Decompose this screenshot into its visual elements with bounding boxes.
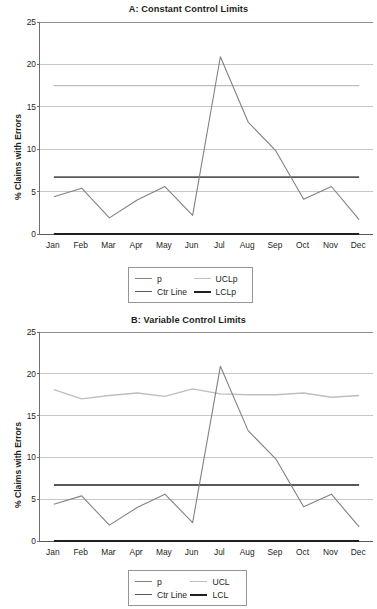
x-tick-label-dec: Dec	[344, 240, 372, 250]
legend-label: p	[157, 577, 162, 587]
chart-title-b: B: Variable Control Limits	[0, 315, 377, 325]
y-tick-label-5: 5	[31, 187, 36, 197]
y-tick-label-15: 15	[27, 102, 36, 112]
legend-swatch-icon	[135, 581, 152, 582]
x-axis-labels-a: JanFebMarAprMayJunJulAugSepOctNovDec	[39, 240, 372, 250]
x-tick-label-jan: Jan	[39, 547, 67, 557]
legend-label: Ctr Line	[157, 590, 187, 600]
legend-swatch-icon	[190, 581, 207, 582]
legend-swatch-icon	[190, 594, 207, 596]
legend-label: Ctr Line	[157, 287, 187, 297]
x-tick-label-aug: Aug	[233, 547, 261, 557]
legend-item-ctr-line: Ctr Line	[135, 590, 190, 600]
legend-label: UCLp	[216, 274, 238, 284]
legend-swatch-icon	[194, 278, 211, 279]
legend-a: pUCLpCtr LineLCLp	[128, 267, 253, 303]
legend-swatch-icon	[194, 291, 211, 293]
x-tick-label-nov: Nov	[317, 547, 345, 557]
legend-item-p: p	[135, 274, 194, 284]
y-tick-label-25: 25	[27, 17, 36, 27]
y-tick-label-0: 0	[31, 229, 36, 239]
x-axis-labels-b: JanFebMarAprMayJunJulAugSepOctNovDec	[39, 547, 372, 557]
legend-swatch-icon	[135, 291, 152, 292]
x-tick-label-jul: Jul	[206, 547, 234, 557]
legend-b: pUCLCtr LineLCL	[128, 570, 247, 606]
y-tick-label-0: 0	[31, 536, 36, 546]
legend-row: Ctr LineLCL	[135, 588, 240, 601]
x-tick-label-feb: Feb	[67, 547, 95, 557]
y-tick-label-20: 20	[27, 59, 36, 69]
x-tick-label-apr: Apr	[122, 240, 150, 250]
legend-item-ctr-line: Ctr Line	[135, 287, 194, 297]
x-tick-label-mar: Mar	[95, 547, 123, 557]
legend-swatch-icon	[135, 594, 152, 595]
x-tick-label-feb: Feb	[67, 240, 95, 250]
legend-label: p	[157, 274, 162, 284]
chart-panel-b: B: Variable Control Limits % Claims with…	[0, 312, 377, 609]
legend-row: Ctr LineLCLp	[135, 285, 246, 298]
x-tick-label-jul: Jul	[206, 240, 234, 250]
series-line-ucl	[54, 389, 359, 399]
legend-item-lclp: LCLp	[194, 287, 246, 297]
x-tick-label-oct: Oct	[289, 547, 317, 557]
x-tick-label-apr: Apr	[122, 547, 150, 557]
x-tick-label-sep: Sep	[261, 547, 289, 557]
legend-swatch-icon	[135, 278, 152, 279]
x-tick-label-aug: Aug	[233, 240, 261, 250]
x-tick-label-may: May	[150, 240, 178, 250]
y-axis-title-a: % Claims with Errors	[13, 114, 23, 200]
plot-area-b: 0510152025	[39, 332, 373, 541]
plot-area-a: 0510152025	[39, 22, 373, 234]
control-chart-figure: A: Constant Control Limits % Claims with…	[0, 0, 377, 609]
legend-label: LCL	[212, 590, 228, 600]
y-tick-label-10: 10	[27, 452, 36, 462]
x-tick-label-oct: Oct	[289, 240, 317, 250]
x-tick-label-sep: Sep	[261, 240, 289, 250]
y-tick-label-15: 15	[27, 411, 36, 421]
y-axis-title-b: % Claims with Errors	[13, 422, 23, 508]
series-lines-b	[40, 332, 373, 541]
chart-panel-a: A: Constant Control Limits % Claims with…	[0, 0, 377, 305]
legend-item-uclp: UCLp	[194, 274, 246, 284]
y-tick-label-25: 25	[27, 327, 36, 337]
x-tick-label-mar: Mar	[95, 240, 123, 250]
x-tick-label-dec: Dec	[344, 547, 372, 557]
series-line-p	[54, 366, 359, 527]
chart-title-a: A: Constant Control Limits	[0, 4, 377, 14]
legend-item-ucl: UCL	[190, 577, 240, 587]
x-tick-label-jun: Jun	[178, 547, 206, 557]
y-tick-label-20: 20	[27, 369, 36, 379]
x-tick-label-jun: Jun	[178, 240, 206, 250]
x-tick-label-nov: Nov	[317, 240, 345, 250]
legend-item-p: p	[135, 577, 190, 587]
x-tick-label-may: May	[150, 547, 178, 557]
series-line-p	[54, 57, 359, 220]
y-tick-label-5: 5	[31, 494, 36, 504]
legend-label: UCL	[212, 577, 229, 587]
series-lines-a	[40, 22, 373, 234]
legend-row: pUCL	[135, 575, 240, 588]
legend-label: LCLp	[216, 287, 237, 297]
legend-row: pUCLp	[135, 272, 246, 285]
x-tick-label-jan: Jan	[39, 240, 67, 250]
y-tick-label-10: 10	[27, 144, 36, 154]
legend-item-lcl: LCL	[190, 590, 240, 600]
